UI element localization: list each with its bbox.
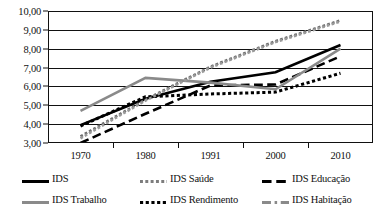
x-tick-mark (113, 143, 114, 148)
x-tick-label: 1980 (135, 150, 155, 161)
y-axis: 3,004,005,006,007,008,009,0010,00 (0, 0, 48, 154)
legend-item[interactable]: IDS Trabalho (22, 194, 140, 205)
x-tick-label: 2000 (265, 150, 285, 161)
x-tick-mark (178, 143, 179, 148)
y-tick-label: 3,00 (23, 138, 41, 149)
legend-label: IDS Saúde (170, 173, 213, 184)
legend-swatch-icon (22, 173, 49, 184)
legend-swatch-icon (262, 173, 289, 184)
plot-area (48, 11, 373, 143)
legend-label: IDS Habitação (292, 194, 352, 205)
legend-swatch-icon (140, 194, 167, 205)
x-tick-mark (243, 143, 244, 148)
y-tick-label: 9,00 (23, 24, 41, 35)
y-tick-label: 6,00 (23, 81, 41, 92)
legend-item[interactable]: IDS Saúde (140, 173, 262, 184)
x-tick-label: 1991 (200, 150, 220, 161)
x-tick-mark (308, 143, 309, 148)
y-tick-label: 8,00 (23, 43, 41, 54)
legend-label: IDS Rendimento (170, 194, 238, 205)
x-tick-label: 1970 (70, 150, 90, 161)
chart-legend: IDSIDS SaúdeIDS EducaçãoIDS TrabalhoIDS … (22, 168, 384, 210)
legend-label: IDS (52, 173, 68, 184)
legend-swatch-icon (22, 194, 49, 205)
x-tick-label: 2010 (330, 150, 350, 161)
y-tick-label: 4,00 (23, 119, 41, 130)
x-axis: 19701980199120002010 (48, 143, 373, 169)
y-tick-label: 10,00 (18, 6, 41, 17)
legend-swatch-icon (140, 173, 167, 184)
legend-item[interactable]: IDS Rendimento (140, 194, 262, 205)
legend-item[interactable]: IDS Educação (262, 173, 384, 184)
legend-item[interactable]: IDS (22, 173, 140, 184)
line-chart: 3,004,005,006,007,008,009,0010,00 197019… (0, 0, 390, 214)
legend-swatch-icon (262, 194, 289, 205)
legend-label: IDS Trabalho (52, 194, 106, 205)
plot-frame (48, 11, 373, 143)
legend-item[interactable]: IDS Habitação (262, 194, 384, 205)
legend-label: IDS Educação (292, 173, 350, 184)
y-tick-label: 7,00 (23, 62, 41, 73)
y-tick-label: 5,00 (23, 100, 41, 111)
